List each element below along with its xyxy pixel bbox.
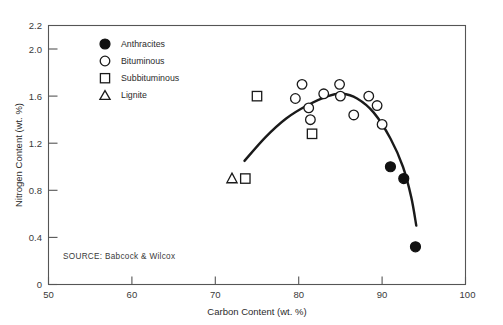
- y-tick-label-6: 2.2: [29, 20, 42, 31]
- data-point: [336, 91, 346, 101]
- y-tick-label-3: 1.2: [29, 138, 42, 149]
- x-tick-label-0: 50: [43, 289, 54, 300]
- data-point: [385, 162, 395, 172]
- y-tick-label-2: 0.8: [29, 185, 42, 196]
- legend-label-subbituminous: Subbituminous: [121, 73, 180, 83]
- data-point: [349, 110, 359, 120]
- data-point: [319, 89, 329, 99]
- chart-legend: Anthracites Bituminous Subbituminous Lig…: [100, 39, 180, 100]
- x-axis-title: Carbon Content (wt. %): [207, 306, 306, 317]
- data-points-layer: [227, 80, 421, 252]
- data-point: [307, 129, 316, 138]
- x-tick-label-1: 60: [127, 289, 138, 300]
- y-tick-label-1: 0.4: [29, 232, 42, 243]
- series-lignite: [227, 173, 237, 183]
- legend-label-bituminous: Bituminous: [121, 56, 165, 66]
- x-axis-ticks: [49, 277, 466, 285]
- x-tick-label-4: 90: [377, 289, 388, 300]
- y-tick-label-5: 2.0: [29, 44, 42, 55]
- source-credit: SOURCE: Babcock & Wilcox: [63, 252, 175, 261]
- plot-frame: [49, 26, 466, 285]
- data-point: [241, 174, 250, 183]
- legend-label-anthracites: Anthracites: [121, 39, 166, 49]
- fit-curve: [244, 94, 416, 226]
- data-point: [291, 94, 301, 104]
- data-point: [364, 91, 374, 101]
- data-point: [399, 174, 409, 184]
- legend-marker-bituminous-icon: [100, 56, 110, 66]
- y-axis-title: Nitrogen Content (wt. %): [13, 103, 24, 207]
- legend-marker-lignite-icon: [100, 91, 110, 100]
- series-anthracites: [385, 162, 420, 252]
- y-tick-label-4: 1.6: [29, 91, 42, 102]
- data-point: [410, 242, 420, 252]
- y-tick-label-0: 0: [37, 279, 42, 290]
- data-point: [377, 120, 387, 130]
- data-point: [335, 80, 345, 90]
- x-tick-label-5: 100: [460, 289, 476, 300]
- legend-label-lignite: Lignite: [121, 90, 147, 100]
- data-point: [297, 80, 307, 90]
- data-point: [306, 115, 316, 125]
- data-point: [304, 103, 314, 113]
- chart-figure: 50 60 70 80 90 100 Carbon Content (wt. %…: [0, 0, 503, 325]
- legend-marker-anthracites-icon: [100, 39, 110, 49]
- x-tick-label-2: 70: [210, 289, 221, 300]
- data-point: [227, 173, 237, 183]
- data-point: [372, 101, 382, 111]
- legend-marker-subbituminous-icon: [100, 74, 109, 83]
- chart-svg: 50 60 70 80 90 100 Carbon Content (wt. %…: [0, 0, 503, 325]
- x-tick-label-3: 80: [293, 289, 304, 300]
- series-bituminous: [291, 80, 387, 130]
- data-point: [252, 91, 261, 100]
- y-axis-ticks: [49, 49, 58, 285]
